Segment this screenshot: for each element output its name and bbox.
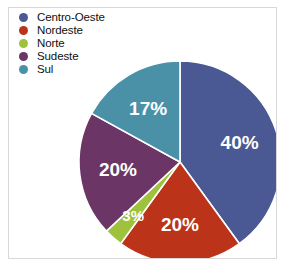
pie-slice-label: 20%: [99, 159, 137, 180]
pie-slice-label: 3%: [122, 207, 144, 224]
clipped-caption-strip: [0, 0, 294, 6]
legend-item-nordeste[interactable]: Nordeste: [19, 24, 105, 37]
legend-item-norte[interactable]: Norte: [19, 37, 105, 50]
legend-item-label: Sudeste: [37, 50, 79, 63]
pie-slice-label: 20%: [161, 214, 199, 235]
legend-item-label: Centro-Oeste: [37, 11, 105, 24]
legend-swatch-icon: [19, 13, 28, 22]
legend-item-centro-oeste[interactable]: Centro-Oeste: [19, 11, 105, 24]
pie-slice-label: 40%: [221, 132, 259, 153]
legend: Centro-Oeste Nordeste Norte Sudeste Sul: [19, 11, 105, 76]
chart-panel: 40%20%3%20%17% Centro-Oeste Nordeste Nor…: [8, 7, 277, 259]
legend-swatch-icon: [19, 52, 28, 61]
legend-swatch-icon: [19, 65, 28, 74]
legend-item-label: Norte: [37, 37, 65, 50]
legend-item-label: Nordeste: [37, 24, 83, 37]
legend-item-sul[interactable]: Sul: [19, 63, 105, 76]
legend-swatch-icon: [19, 26, 28, 35]
legend-item-sudeste[interactable]: Sudeste: [19, 50, 105, 63]
pie-slice-label: 17%: [129, 98, 167, 119]
legend-item-label: Sul: [37, 63, 53, 76]
legend-swatch-icon: [19, 39, 28, 48]
